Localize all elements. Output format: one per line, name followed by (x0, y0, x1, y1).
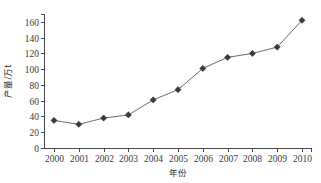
y-axis-ticks: 020406080100120140160 (25, 15, 45, 154)
y-tick-label: 40 (30, 112, 40, 122)
x-tick-label: 2009 (268, 154, 287, 164)
x-tick-label: 2006 (194, 154, 213, 164)
x-axis-title: 年份 (169, 168, 187, 178)
y-tick-label: 100 (25, 65, 40, 75)
y-tick-label: 120 (25, 49, 40, 59)
x-tick-label: 2003 (119, 154, 138, 164)
data-series-line (54, 20, 302, 124)
y-tick-label: 60 (30, 97, 40, 107)
x-tick-label: 2004 (144, 154, 163, 164)
data-point-marker (225, 54, 231, 60)
data-point-marker (51, 117, 57, 123)
x-tick-label: 2002 (95, 154, 114, 164)
data-point-marker (249, 50, 255, 56)
x-tick-label: 2010 (293, 154, 312, 164)
y-axis-title: 产量/万t (3, 64, 13, 98)
y-tick-label: 20 (30, 128, 40, 138)
x-tick-label: 2005 (169, 154, 188, 164)
data-markers (51, 17, 305, 127)
x-tick-label: 2000 (45, 154, 64, 164)
line-chart: 0204060801001201401602000200120022003200… (0, 0, 321, 183)
y-tick-label: 0 (34, 144, 39, 154)
data-point-marker (150, 97, 156, 103)
y-tick-label: 140 (25, 34, 40, 44)
x-tick-label: 2001 (70, 154, 89, 164)
chart-canvas: 0204060801001201401602000200120022003200… (0, 0, 321, 183)
x-tick-label: 2008 (243, 154, 262, 164)
y-tick-label: 80 (30, 81, 40, 91)
data-point-marker (125, 112, 131, 118)
x-tick-label: 2007 (219, 154, 238, 164)
x-axis-ticks: 2000200120022003200420052006200720082009… (45, 149, 312, 164)
data-point-marker (76, 121, 82, 127)
data-point-marker (101, 115, 107, 121)
y-tick-label: 160 (25, 18, 40, 28)
